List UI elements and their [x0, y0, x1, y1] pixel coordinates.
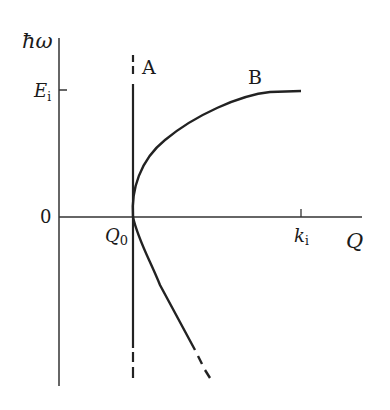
- curve-b-label: B: [248, 66, 262, 88]
- curve-b-lower-dashed: [198, 356, 210, 378]
- q0-label: Q0: [105, 225, 128, 248]
- ei-label: Ei: [33, 80, 51, 104]
- x-axis-label: Q: [346, 229, 363, 253]
- curve-b-upper: [133, 91, 301, 217]
- curve-a-label: A: [141, 56, 156, 78]
- zero-label: 0: [40, 206, 51, 227]
- ki-label: ki: [294, 225, 309, 248]
- y-axis-label: ħω: [22, 29, 53, 53]
- dispersion-diagram: ħω Ei 0 Q0 ki Q A B: [0, 0, 390, 410]
- curve-b-lower: [133, 217, 195, 350]
